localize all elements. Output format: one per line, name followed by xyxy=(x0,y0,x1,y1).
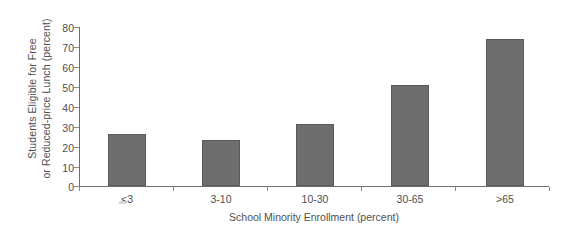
bar-30-65 xyxy=(391,85,429,186)
y-axis-line xyxy=(79,27,80,187)
y-tick-label: 30 xyxy=(48,123,74,133)
x-axis-title: School Minority Enrollment (percent) xyxy=(79,211,549,223)
y-tick-label: 10 xyxy=(48,163,74,173)
bar-gt65 xyxy=(486,39,524,186)
x-tick-label-gt65: >65 xyxy=(460,193,550,205)
y-tick-label: 60 xyxy=(48,63,74,73)
y-axis-title-line-2: or Reduced-price Lunch (percent) xyxy=(39,18,53,178)
bar-chart: Students Eligible for Free or Reduced-pr… xyxy=(0,0,578,236)
y-tick-label: 70 xyxy=(48,43,74,53)
x-tick-mark xyxy=(173,187,174,191)
y-tick-label: 80 xyxy=(48,23,74,33)
y-tick-label: 50 xyxy=(48,83,74,93)
y-tick-label: 40 xyxy=(48,103,74,113)
x-tick-mark xyxy=(267,187,268,191)
x-tick-label-lt3: <3 xyxy=(82,193,172,205)
y-tick-label: 0 xyxy=(48,182,74,192)
bar-lt3 xyxy=(108,134,146,186)
x-tick-mark xyxy=(455,187,456,191)
bar-10-30 xyxy=(296,124,334,186)
x-axis-line xyxy=(79,186,549,187)
x-tick-mark xyxy=(361,187,362,191)
y-tick-label: 20 xyxy=(48,143,74,153)
x-tick-mark xyxy=(79,187,80,191)
y-axis-title-line-1: Students Eligible for Free xyxy=(26,18,40,178)
bar-3-10 xyxy=(202,140,240,186)
x-tick-label-30-65: 30-65 xyxy=(365,193,455,205)
x-tick-mark xyxy=(549,187,550,191)
scan-artifact xyxy=(119,201,126,204)
x-tick-label-3-10: 3-10 xyxy=(176,193,266,205)
x-tick-label-10-30: 10-30 xyxy=(270,193,360,205)
